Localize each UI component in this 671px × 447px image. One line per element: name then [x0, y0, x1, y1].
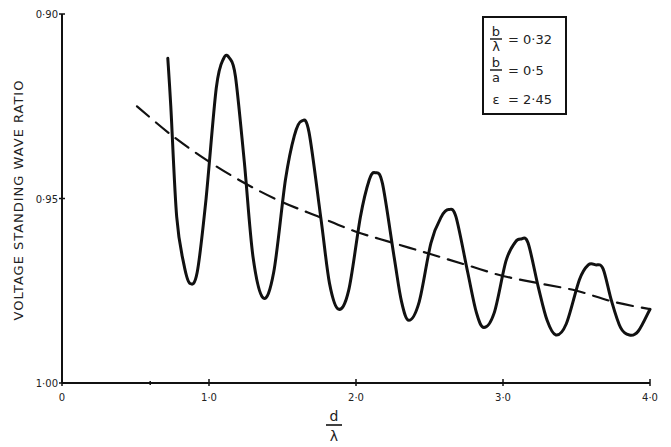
x-tick-label: 4·0: [642, 392, 658, 403]
x-tick-label: 0: [59, 392, 65, 403]
parameter-legend-box: b λ = 0·32 b a = 0·5 ε = 2·45: [483, 17, 566, 114]
legend-den: a: [492, 70, 500, 85]
x-tick-label: 1·0: [201, 392, 217, 403]
legend-den: λ: [492, 39, 500, 54]
series-measured-line: [168, 55, 650, 335]
y-tick-label: 0·95: [36, 194, 58, 205]
legend-num: b: [492, 55, 500, 70]
legend-value: = 0·5: [508, 63, 544, 78]
y-tick-label: 0·90: [36, 9, 58, 20]
vswr-chart: 01·02·03·04·00·900·951·00 VOLTAGE STANDI…: [0, 0, 671, 447]
data-series: [137, 55, 650, 335]
legend-value: = 2·45: [508, 92, 552, 107]
legend-num: b: [492, 24, 500, 39]
x-tick-label: 3·0: [495, 392, 511, 403]
x-tick-label: 2·0: [348, 392, 364, 403]
x-axis-title-numerator: d: [330, 408, 339, 424]
y-axis-title: VOLTAGE STANDING WAVE RATIO: [11, 80, 26, 321]
x-axis-title-denominator: λ: [330, 428, 338, 444]
y-tick-label: 1·00: [36, 378, 58, 389]
series-mean-line: [137, 106, 650, 309]
legend-symbol: ε: [492, 92, 499, 107]
x-axis-title: d λ: [326, 408, 342, 444]
legend-value: = 0·32: [508, 32, 552, 47]
